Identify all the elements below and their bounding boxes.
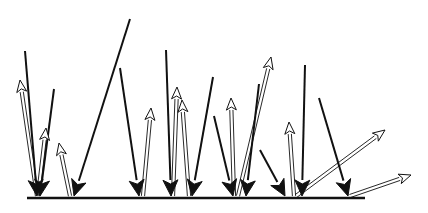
arrowhead-hollow-icon <box>17 80 27 93</box>
incident-arrow <box>72 19 130 196</box>
arrowhead-hollow-icon <box>398 174 411 183</box>
incident-arrow <box>295 65 310 196</box>
incident-arrow <box>260 150 285 196</box>
reflected-arrow <box>349 174 411 197</box>
diagram-canvas <box>0 0 428 213</box>
incident-arrows <box>25 19 351 196</box>
incident-arrow <box>187 77 213 196</box>
arrowhead-filled-icon <box>222 179 237 196</box>
reflected-arrow <box>285 122 296 196</box>
reflection-diagram <box>0 0 428 213</box>
reflected-arrow <box>171 87 181 196</box>
arrowhead-filled-icon <box>336 179 350 196</box>
arrowhead-hollow-icon <box>145 108 155 120</box>
reflected-arrow <box>226 98 236 196</box>
arrowhead-filled-icon <box>163 180 178 196</box>
arrowhead-hollow-icon <box>57 143 67 156</box>
arrowhead-hollow-icon <box>172 87 182 99</box>
arrowhead-hollow-icon <box>263 57 273 70</box>
incident-arrow <box>120 68 144 196</box>
incident-arrow <box>319 98 351 196</box>
arrowhead-hollow-icon <box>178 100 188 112</box>
reflected-arrow <box>57 143 72 196</box>
arrowhead-hollow-icon <box>285 122 295 134</box>
reflected-arrows <box>17 57 411 198</box>
incident-arrow <box>35 89 54 196</box>
arrowhead-filled-icon <box>72 178 86 196</box>
arrowhead-hollow-icon <box>226 98 236 110</box>
